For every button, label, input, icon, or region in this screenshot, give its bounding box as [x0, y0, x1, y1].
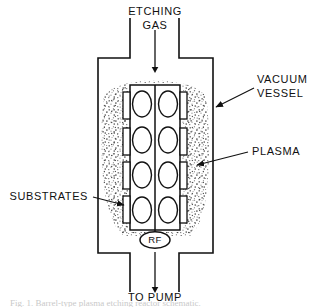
figure-caption-ghost: Fig. 1. Barrel-type plasma etching react… [10, 298, 201, 307]
plasma-label: PLASMA [252, 145, 300, 157]
vacuum-vessel-leader [216, 88, 254, 107]
inlet-label-line1: ETCHING [128, 5, 182, 17]
rf-label: RF [148, 234, 161, 245]
plasma-etcher-diagram: RF ETCHING GAS VACUUM VESSEL PLASMA SUBS… [0, 0, 311, 307]
substrates-label: SUBSTRATES [9, 190, 88, 202]
vacuum-vessel-label-line1: VACUUM [257, 73, 307, 85]
inlet-label-line2: GAS [142, 19, 167, 31]
figure-root: RF ETCHING GAS VACUUM VESSEL PLASMA SUBS… [0, 0, 311, 307]
vacuum-vessel-label-line2: VESSEL [257, 87, 303, 99]
